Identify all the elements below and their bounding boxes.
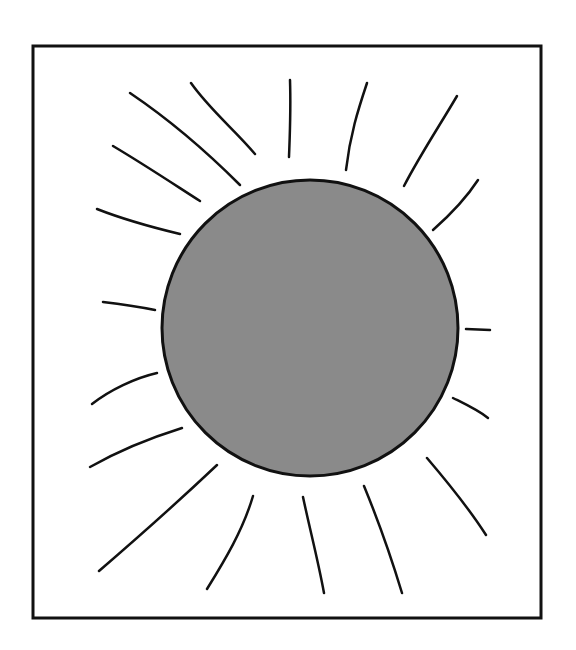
sun-drawing xyxy=(0,0,576,650)
ray xyxy=(466,329,490,330)
ray xyxy=(289,80,290,157)
sun-disc xyxy=(162,180,458,476)
